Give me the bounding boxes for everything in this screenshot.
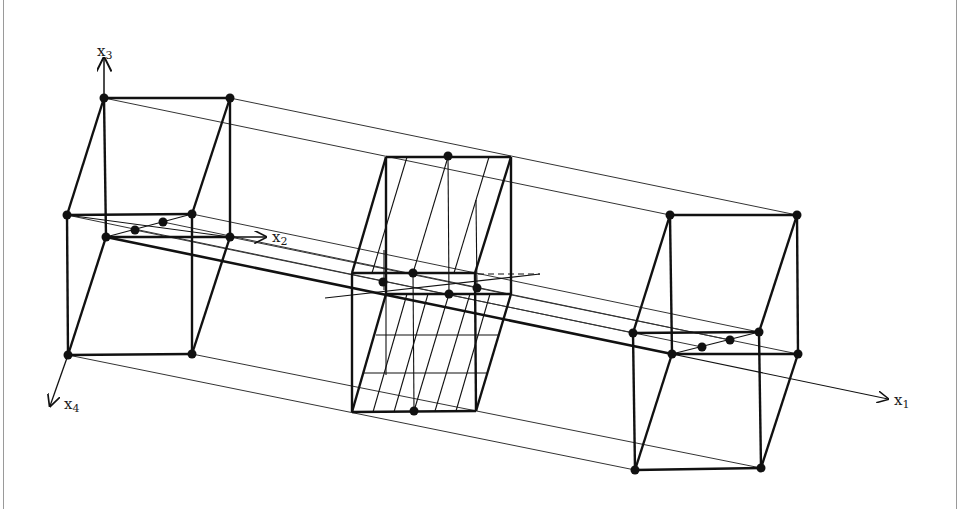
left-cube (67, 98, 230, 355)
x2-label-sub: 2 (280, 235, 287, 248)
x3-axis-label: x3 (97, 44, 112, 61)
middle-cube-hatching (325, 157, 540, 412)
x3-label-sub: 3 (105, 49, 112, 62)
x1-axis (672, 354, 888, 399)
hypercube-diagram (0, 0, 968, 509)
x1-label-sub: 1 (902, 398, 909, 411)
x1-axis-label: x1 (894, 393, 909, 410)
x4-axis-label: x4 (64, 397, 79, 414)
connector-lines (67, 98, 798, 470)
x4-label-sub: 4 (72, 402, 79, 415)
x2-axis-label: x2 (272, 230, 287, 247)
right-cube (633, 215, 798, 470)
middle-cube (352, 157, 511, 412)
